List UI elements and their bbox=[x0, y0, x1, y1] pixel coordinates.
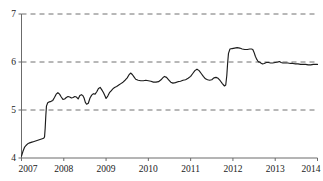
x-tick-label-2010: 2010 bbox=[139, 164, 158, 174]
x-tick-label-2009: 2009 bbox=[97, 164, 116, 174]
chart-canvas: 4567 20072008200920102011201220132014 bbox=[0, 0, 323, 181]
y-axis-tick-labels: 4567 bbox=[11, 9, 16, 163]
x-tick-label-2008: 2008 bbox=[54, 164, 73, 174]
x-tick-label-2014: 2014 bbox=[302, 164, 321, 174]
x-tick-label-2011: 2011 bbox=[181, 164, 200, 174]
y-tick-label-6: 6 bbox=[11, 57, 16, 67]
series-line-1 bbox=[22, 48, 318, 156]
x-tick-label-2007: 2007 bbox=[19, 164, 38, 174]
y-tick-label-5: 5 bbox=[11, 105, 16, 115]
x-axis-tick-labels: 20072008200920102011201220132014 bbox=[19, 164, 321, 174]
gridlines bbox=[22, 14, 318, 110]
chart-axes bbox=[22, 14, 318, 158]
x-tick-label-2013: 2013 bbox=[266, 164, 285, 174]
y-tick-label-4: 4 bbox=[11, 153, 16, 163]
axis-tick-marks bbox=[19, 14, 318, 161]
x-tick-label-2012: 2012 bbox=[223, 164, 242, 174]
data-series bbox=[22, 48, 318, 156]
line-chart-figure: 4567 20072008200920102011201220132014 bbox=[0, 0, 323, 181]
y-tick-label-7: 7 bbox=[11, 9, 16, 19]
